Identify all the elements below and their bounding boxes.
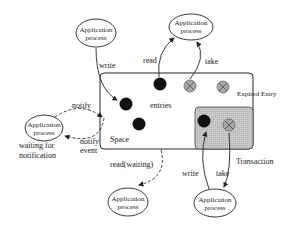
process-label: process [118,203,139,211]
process-label: process [205,204,226,212]
read-waiting-label: read(waiting) [110,160,153,169]
process-label: Application [79,26,113,34]
process-label: process [181,27,202,35]
process-label: Application [111,195,145,203]
waiting-label: waiting for [19,141,55,150]
entry-dot [198,115,211,128]
write-label: write [99,61,116,70]
notify-event-label: event [80,146,98,155]
notify-label: notify [72,101,91,110]
read-label: read [143,56,157,65]
waiting-label: notification [19,151,56,160]
entries-label: entries [150,101,171,110]
process-label: Application [174,19,208,27]
transaction-label: Transaction [236,157,273,166]
entry-dot [154,78,167,91]
write-arrow [96,48,117,100]
entry-dot [120,98,133,111]
expired-entry-icon [217,81,229,93]
process-label: Application [198,196,232,204]
space-label: Space [110,135,130,144]
take-label: take [205,57,219,66]
notify-event-arrow [65,118,104,139]
process-label: Application [27,121,61,129]
process-label: process [34,129,55,137]
expired-entry-label: Expired Entry [237,90,277,98]
diagram-canvas: Application process Application process … [0,0,292,228]
entry-dot [133,118,146,131]
read-arrow [159,38,174,77]
process-label: process [86,34,107,42]
expired-entry-icon [184,80,196,92]
transaction-entry-icon [223,119,235,131]
tx-take-label: take [216,169,230,178]
tx-write-label: write [182,169,199,178]
notify-event-label: notify [80,137,99,146]
